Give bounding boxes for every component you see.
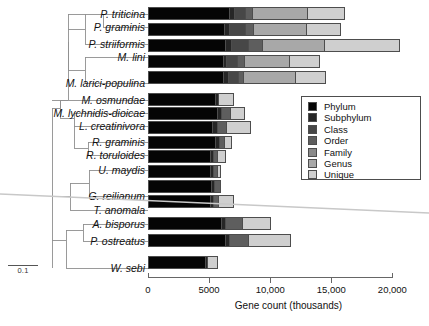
legend-label: Class [324,124,348,135]
segment-order [217,122,226,133]
bar-l-creatinivora [148,121,251,134]
legend-label: Order [324,135,348,146]
bar-g-reilianum [148,180,221,193]
segment-order [237,56,244,67]
x-tick-label: 10,000 [256,284,285,295]
segment-genus [244,56,289,67]
segment-phylum [149,72,223,83]
segment-phylum [149,137,215,148]
bar-p-triticina [148,7,345,20]
legend-swatch-order [308,136,317,145]
segment-phylum [149,24,224,35]
tree-scale-bar: 0.1 [8,265,38,275]
segment-unique [248,235,290,246]
scale-bar-label: 0.1 [8,266,38,275]
bar-p-ostreatus [148,234,291,247]
segment-order [214,181,219,192]
segment-unique [217,166,221,177]
bar-p-striiformis [148,39,400,52]
bar-m-osmundae [148,93,234,106]
legend-item-phylum: Phylum [308,101,420,112]
x-tick [270,278,271,283]
segment-phylum [149,235,225,246]
segment-phylum [149,8,229,19]
segment-unique [289,56,319,67]
taxon-label: P. ostreatus [90,234,145,248]
segment-order [229,235,248,246]
segment-unique [218,94,234,105]
segment-unique [207,257,217,268]
segment-phylum [149,257,205,268]
segment-unique [324,40,399,51]
legend-label: Family [324,147,352,158]
bar-w-sebi [148,256,218,269]
bar-m-lychnidis-dioicae [148,107,245,120]
segment-phylum [149,56,223,67]
segment-unique [307,8,343,19]
legend-item-class: Class [308,124,420,135]
segment-unique [306,24,340,35]
segment-genus [252,8,308,19]
segment-phylum [149,151,210,162]
segment-phylum [149,40,225,51]
bar-t-anomala [148,195,234,208]
taxon-label: G. reilianum [88,189,145,203]
legend-label: Genus [324,158,352,169]
segment-class [226,56,237,67]
legend-swatch-subphylum [308,113,317,122]
x-tick-label: 0 [145,284,150,295]
legend-item-unique: Unique [308,169,420,180]
figure-phylogeny-gene-count: P. triticina P. graminis P. striiformis … [0,0,429,326]
taxon-label: U. maydis [98,163,145,177]
taxon-label: A. bisporus [92,217,145,231]
segment-phylum [149,108,217,119]
segment-genus [253,24,306,35]
segment-unique [226,122,250,133]
x-axis-title: Gene count (thousands) [148,300,429,311]
taxon-label: P. triticina [100,7,145,21]
legend: PhylumSubphylumClassOrderFamilyGenusUniq… [301,96,421,180]
taxon-label: M. larici-populina [66,76,145,90]
segment-unique [295,72,325,83]
bar-p-graminis [148,23,341,36]
segment-unique [218,196,232,207]
legend-swatch-phylum [308,102,317,111]
x-tick-label: 15,000 [317,284,346,295]
bar-a-bisporus [148,217,271,230]
segment-unique [230,108,244,119]
bar-r-graminis [148,136,232,149]
legend-swatch-unique [308,170,317,179]
segment-order [225,218,242,229]
segment-genus [243,72,295,83]
taxon-label: R. graminis [92,135,145,149]
segment-unique [242,218,271,229]
segment-phylum [149,94,215,105]
x-tick-label: 20,000 [378,284,407,295]
segment-phylum [149,166,210,177]
segment-phylum [149,196,210,207]
x-tick [209,278,210,283]
legend-item-subphylum: Subphylum [308,112,420,123]
x-tick [331,278,332,283]
legend-item-order: Order [308,135,420,146]
legend-swatch-family [308,148,317,157]
segment-class [229,24,245,35]
legend-swatch-class [308,125,317,134]
segment-unique [217,151,224,162]
taxon-label: P. striiformis [89,37,145,51]
legend-label: Subphylum [324,112,372,123]
x-tick-label: 5000 [199,284,220,295]
taxon-label: M. osmundae [81,93,145,107]
segment-genus [262,40,324,51]
segment-phylum [149,181,211,192]
segment-order [221,108,229,119]
legend-swatch-genus [308,159,317,168]
segment-order [245,24,253,35]
taxon-label: M. lini [118,50,145,64]
segment-class [228,72,239,83]
segment-unique [224,137,231,148]
bar-m-lini [148,55,320,68]
x-axis [148,277,392,284]
taxon-label: M. lychnidis-dioicae [53,106,145,120]
segment-phylum [149,218,221,229]
